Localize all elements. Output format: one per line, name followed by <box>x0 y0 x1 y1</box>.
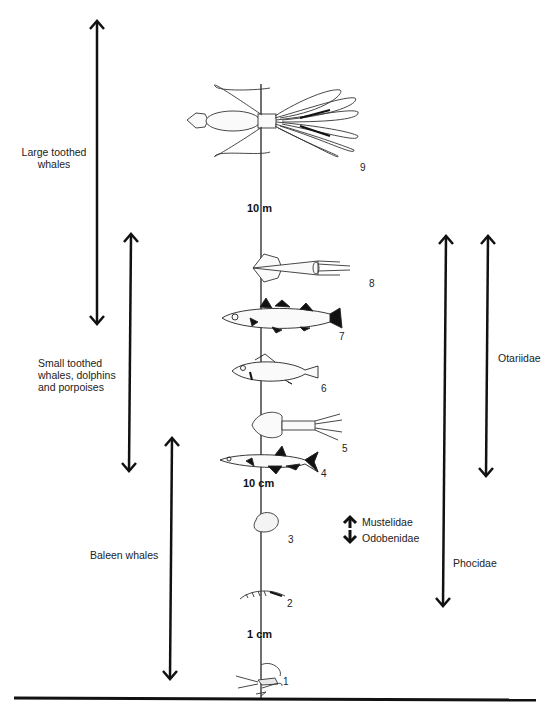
prey-number-1: 1 <box>283 676 289 687</box>
krill-icon <box>240 591 285 599</box>
clam-icon <box>254 513 278 532</box>
scale-label-1cm: 1 cm <box>247 628 272 640</box>
phocidae-label: Phocidae <box>453 557 497 569</box>
small-fish-icon <box>220 446 318 474</box>
large-toothed-whales-range-arrow <box>90 21 104 324</box>
odobenidae-range-arrow <box>344 530 356 542</box>
prey-number-7: 7 <box>339 331 345 342</box>
squid-icon <box>253 254 350 282</box>
diagram-canvas <box>0 0 560 707</box>
small-toothed-whales-range-arrow <box>122 234 138 471</box>
label-line: Small toothed <box>38 357 116 369</box>
small-toothed-whales-label: Small toothed whales, dolphins and porpo… <box>38 357 116 393</box>
scale-label-10m: 10 m <box>247 202 272 214</box>
perch-fish-icon <box>232 354 318 384</box>
prey-number-3: 3 <box>288 534 294 545</box>
giant-squid-icon <box>187 85 358 157</box>
small-squid-icon <box>252 412 342 440</box>
odobenidae-label: Odobenidae <box>362 532 419 544</box>
mustelidae-range-arrow <box>344 517 356 528</box>
baleen-whales-range-arrow <box>163 438 179 679</box>
cod-fish-icon <box>222 298 342 333</box>
mustelidae-label: Mustelidae <box>362 516 413 528</box>
large-toothed-whales-label: Large toothed whales <box>14 146 94 170</box>
baseline <box>14 698 536 700</box>
scale-label-10cm: 10 cm <box>243 477 274 489</box>
baleen-whales-label: Baleen whales <box>90 549 158 561</box>
prey-number-5: 5 <box>342 443 348 454</box>
phocidae-range-arrow <box>436 236 453 606</box>
prey-number-6: 6 <box>321 383 327 394</box>
label-line: and porpoises <box>38 381 116 393</box>
prey-number-2: 2 <box>287 598 293 609</box>
label-line: whales, dolphins <box>38 369 116 381</box>
prey-number-4: 4 <box>321 468 327 479</box>
prey-number-8: 8 <box>369 278 375 289</box>
label-line: Large toothed <box>14 146 94 158</box>
otariidae-label: Otariidae <box>498 352 541 364</box>
otariidae-range-arrow <box>479 236 495 476</box>
copepod-icon <box>236 663 282 696</box>
label-line: whales <box>14 158 94 170</box>
prey-number-9: 9 <box>360 162 366 173</box>
